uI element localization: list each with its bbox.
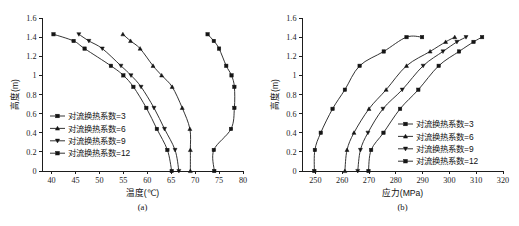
legend-label: 对流换热系数=6 [416,132,474,142]
x-tick-label: 75 [215,176,223,185]
x-tick-label: 290 [416,176,428,185]
x-tick-label: 270 [362,176,374,185]
y-tick-label: 1.2 [26,52,36,61]
data-point-marker [365,131,369,135]
y-axis-title: 高度(m) [9,79,20,110]
data-point-marker [416,88,419,91]
data-point-marker [366,169,369,172]
y-tick-label: 1 [292,71,296,80]
data-point-marker [471,40,474,43]
y-tick-label: 0.8 [286,91,296,100]
data-point-marker [454,40,458,44]
y-tick-label: 0.4 [26,129,36,138]
x-tick-label: 50 [95,176,103,185]
data-point-marker [343,88,346,91]
data-point-marker [72,39,75,42]
figure-container: 40455055606570758000.20.40.60.811.21.41.… [0,0,519,226]
y-axis-title: 高度(m) [269,79,280,110]
data-point-marker [56,114,60,118]
data-point-marker [225,64,228,67]
y-tick-label: 0 [32,167,36,176]
data-point-marker [382,50,385,53]
x-tick-label: 280 [389,176,401,185]
data-series [121,32,192,172]
y-tick-label: 1.4 [286,33,296,42]
data-point-marker [173,148,177,152]
x-tick-label: 45 [71,176,79,185]
series-line [314,36,422,171]
x-axis-title: 应力(MPa) [381,187,423,198]
data-point-marker [357,64,360,67]
data-point-marker [206,33,209,36]
x-axis-title: 温度(℃) [126,187,160,198]
y-tick-label: 1.2 [286,52,296,61]
legend-label: 对流换热系数=9 [68,136,126,146]
data-point-marker [358,148,362,152]
legend-label: 对流换热系数=3 [68,111,126,121]
chart-b-svg: 25026027028029030031032000.20.40.60.811.… [260,0,519,226]
data-point-marker [313,148,316,151]
data-point-marker [83,47,86,50]
data-point-marker [233,106,236,109]
data-point-marker [166,148,169,151]
x-tick-label: 80 [239,176,247,185]
data-point-marker [122,74,125,77]
data-point-marker [230,74,233,77]
data-point-marker [345,148,349,152]
data-point-marker [452,35,456,39]
data-point-marker [217,47,220,50]
chart-a-svg: 40455055606570758000.20.40.60.811.21.41.… [0,0,259,226]
data-point-marker [152,106,156,110]
panel-caption: (b) [397,202,407,212]
chart-legend: 对流换热系数=3对流换热系数=6对流换热系数=9对流换热系数=12 [398,119,479,166]
y-tick-label: 0.6 [26,110,36,119]
data-point-marker [428,49,432,53]
y-tick-label: 0 [292,167,296,176]
data-point-marker [155,127,158,130]
data-point-marker [163,127,167,131]
data-point-marker [312,169,315,172]
x-tick-label: 60 [143,176,151,185]
y-tick-label: 0.8 [26,91,36,100]
data-point-marker [170,169,173,172]
chart-legend: 对流换热系数=3对流换热系数=6对流换热系数=9对流换热系数=12 [50,111,131,158]
data-point-marker [109,64,112,67]
data-point-marker [457,50,460,53]
data-point-marker [180,106,184,110]
data-point-marker [436,64,439,67]
x-tick-label: 300 [443,176,455,185]
y-tick-label: 0.2 [286,148,296,157]
x-tick-label: 65 [167,176,175,185]
legend-label: 对流换热系数=3 [416,119,474,129]
data-point-marker [403,122,407,126]
y-tick-label: 0.2 [26,148,36,157]
data-point-marker [132,85,135,88]
x-tick-label: 250 [309,176,321,185]
series-line [208,34,235,171]
x-tick-label: 55 [119,176,127,185]
data-point-marker [233,85,236,88]
legend-label: 对流换热系数=6 [68,124,126,134]
data-point-marker [420,35,423,38]
x-tick-label: 320 [496,176,508,185]
x-tick-label: 310 [470,176,482,185]
data-point-marker [212,39,215,42]
data-point-marker [52,33,55,36]
data-point-marker [403,159,407,163]
chart-panel-a: 40455055606570758000.20.40.60.811.21.41.… [0,0,260,226]
x-tick-label: 70 [191,176,199,185]
data-series [206,33,236,173]
chart-panel-b: 25026027028029030031032000.20.40.60.811.… [260,0,519,226]
data-point-marker [212,148,215,151]
data-point-marker [381,131,384,134]
y-tick-label: 1.4 [26,33,36,42]
data-point-marker [398,107,401,110]
y-tick-label: 1.6 [26,14,36,23]
series-line [123,34,191,171]
data-point-marker [87,39,91,43]
data-point-marker [480,35,483,38]
x-tick-label: 260 [336,176,348,185]
x-tick-label: 40 [47,176,55,185]
panel-caption: (a) [138,202,148,212]
y-tick-label: 1.6 [286,14,296,23]
